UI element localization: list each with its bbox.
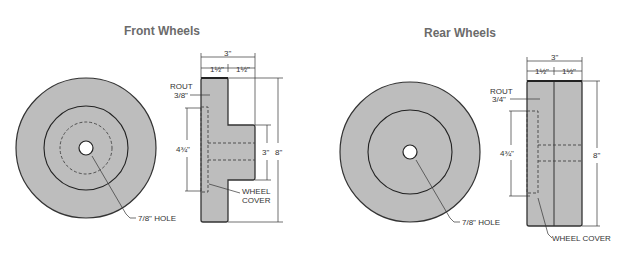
rear-width-3: 3" xyxy=(551,53,558,62)
front-half-left: 1½" xyxy=(210,65,224,74)
front-cover-label-2: COVER xyxy=(242,196,271,205)
front-hub-height: 3" xyxy=(262,148,269,157)
rear-cover-height: 4¾" xyxy=(500,149,514,158)
front-width-3: 3" xyxy=(224,49,231,58)
rear-diameter: 8" xyxy=(593,151,600,160)
rear-half-left: 1½" xyxy=(535,67,549,76)
wheel-diagram: Front Wheels 7/8" HOLE 3" 1½" 1½" ROUT 3… xyxy=(0,0,630,257)
rear-wheels-title: Rear Wheels xyxy=(424,26,496,40)
front-diameter: 8" xyxy=(275,148,282,157)
front-rout-label: ROUT xyxy=(170,82,193,91)
front-rout-value: 3/8" xyxy=(174,91,188,100)
rear-half-right: 1½" xyxy=(562,67,576,76)
rear-rout-value: 3/4" xyxy=(492,95,506,104)
front-hole-label: 7/8" HOLE xyxy=(138,214,176,223)
rear-hole-label: 7/8" HOLE xyxy=(462,218,500,227)
rear-cover-label: WHEEL COVER xyxy=(552,234,611,243)
front-cover-height: 4¾" xyxy=(176,145,190,154)
front-wheel-face-view: 7/8" HOLE xyxy=(16,78,176,223)
front-cover-label-1: WHEEL xyxy=(242,187,271,196)
rear-wheel-side-view: 3" 1½" 1½" ROUT 3/4" 4¾" 8" WHEEL COVER xyxy=(490,53,611,243)
front-wheels-title: Front Wheels xyxy=(124,24,200,38)
rear-wheel-face-view: 7/8" HOLE xyxy=(340,82,500,227)
front-wheel-side-view: 3" 1½" 1½" ROUT 3/8" 4¾" 3" 8" WHEEL COV… xyxy=(170,49,283,222)
front-half-right: 1½" xyxy=(236,65,250,74)
